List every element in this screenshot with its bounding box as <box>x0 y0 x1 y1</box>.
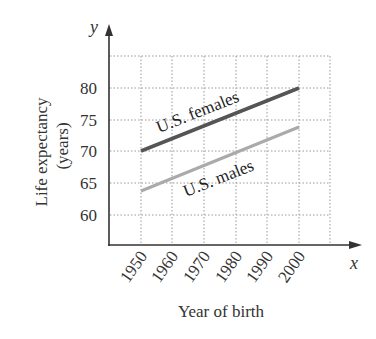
y-axis-arrow-icon <box>105 24 113 36</box>
x-tick-label: 1990 <box>242 247 277 286</box>
x-tick-label: 1960 <box>147 247 182 286</box>
y-tick-labels: 80 75 70 65 60 <box>80 79 97 225</box>
y-tick-label: 80 <box>80 79 97 98</box>
x-tick-label: 2000 <box>274 247 309 286</box>
x-axis-arrow-icon <box>349 241 362 249</box>
y-tick-label: 75 <box>80 111 97 130</box>
x-axis-variable: x <box>349 253 358 273</box>
x-tick-labels: 1950 1960 1970 1980 1990 2000 <box>116 247 309 286</box>
y-axis-title-line1: Life expectancy <box>32 97 51 207</box>
x-tick-label: 1970 <box>179 247 214 286</box>
x-tick-label: 1950 <box>116 247 151 286</box>
life-expectancy-chart: y x 80 75 70 65 60 Life expectancy (year… <box>0 0 376 339</box>
y-tick-label: 70 <box>80 142 97 161</box>
y-axis-title-line2: (years) <box>53 122 72 169</box>
y-tick-label: 60 <box>80 206 97 225</box>
series-label-males: U.S. males <box>181 156 257 201</box>
y-axis-variable: y <box>88 17 98 37</box>
x-tick-label: 1980 <box>211 247 246 286</box>
x-axis-title: Year of birth <box>178 302 265 321</box>
y-tick-label: 65 <box>80 174 97 193</box>
